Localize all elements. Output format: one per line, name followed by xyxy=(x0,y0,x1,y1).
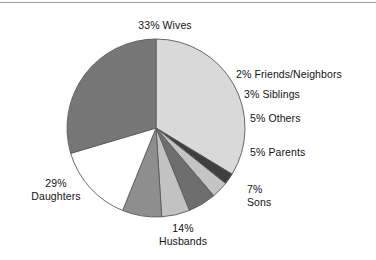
pie-chart-figure: 33% Wives2% Friends/Neighbors3% Siblings… xyxy=(0,0,376,260)
pie-label-husbands: 14%Husbands xyxy=(123,222,243,247)
pie-label-line: 5% Others xyxy=(250,112,301,125)
pie-label-line: Sons xyxy=(247,196,271,209)
pie-label-line: 5% Parents xyxy=(250,146,305,159)
pie-label-line: 3% Siblings xyxy=(244,88,300,101)
pie-label-others: 5% Others xyxy=(250,112,301,125)
pie-label-line: 33% Wives xyxy=(105,19,225,32)
pie-label-daughters: 29%Daughters xyxy=(0,177,116,202)
pie-label-siblings: 3% Siblings xyxy=(244,88,300,101)
pie-label-line: 14% xyxy=(123,222,243,235)
pie-label-line: 2% Friends/Neighbors xyxy=(236,68,342,81)
pie-label-line: 7% xyxy=(247,183,271,196)
pie-label-line: Daughters xyxy=(0,190,116,203)
pie-label-sons: 7%Sons xyxy=(247,183,271,208)
pie-chart-svg xyxy=(0,0,376,260)
pie-label-parents: 5% Parents xyxy=(250,146,305,159)
pie-label-line: 29% xyxy=(0,177,116,190)
pie-label-line: Husbands xyxy=(123,235,243,248)
pie-label-friends-neighbors: 2% Friends/Neighbors xyxy=(236,68,342,81)
pie-label-wives: 33% Wives xyxy=(105,19,225,32)
